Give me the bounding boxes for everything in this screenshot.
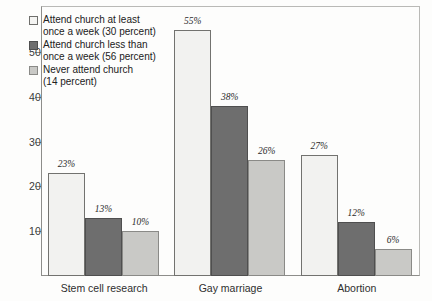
legend-label-weekly-line1: Attend church at least bbox=[43, 14, 156, 26]
legend-label-weekly: Attend church at least once a week (30 p… bbox=[43, 14, 156, 37]
legend-swatch-icon-weekly bbox=[29, 16, 38, 25]
legend-label-less-than-weekly-line2: once a week (56 percent) bbox=[43, 51, 156, 63]
bar-chart: 1020304050 23%13%10%55%38%26%27%12%6% St… bbox=[0, 0, 432, 301]
legend-label-less-than-weekly-line1: Attend church less than bbox=[43, 39, 156, 51]
x-axis-category-label: Gay marriage bbox=[167, 283, 293, 294]
bar bbox=[122, 231, 159, 276]
legend: Attend church at least once a week (30 p… bbox=[29, 14, 214, 89]
x-axis-category-label: Stem cell research bbox=[41, 283, 167, 294]
bar-value-label: 13% bbox=[79, 205, 128, 215]
legend-swatch-icon-less-than-weekly bbox=[29, 41, 38, 50]
bar-value-label: 38% bbox=[205, 93, 254, 103]
bar-value-label: 12% bbox=[332, 209, 381, 219]
legend-item-weekly: Attend church at least once a week (30 p… bbox=[29, 14, 214, 37]
bar-value-label: 27% bbox=[295, 142, 344, 152]
bar bbox=[248, 160, 285, 276]
bar-value-label: 10% bbox=[116, 218, 165, 228]
bar bbox=[48, 173, 85, 276]
bar bbox=[211, 106, 248, 276]
legend-label-weekly-line2: once a week (30 percent) bbox=[43, 26, 156, 38]
bar-value-label: 23% bbox=[42, 160, 91, 170]
legend-label-never-line1: Never attend church bbox=[43, 64, 133, 76]
bar bbox=[338, 222, 375, 276]
bar-value-label: 26% bbox=[242, 147, 291, 157]
bar-value-label: 6% bbox=[369, 236, 418, 246]
legend-item-never: Never attend church (14 percent) bbox=[29, 64, 214, 87]
legend-label-less-than-weekly: Attend church less than once a week (56 … bbox=[43, 39, 156, 62]
bar bbox=[375, 249, 412, 276]
legend-item-less-than-weekly: Attend church less than once a week (56 … bbox=[29, 39, 214, 62]
legend-swatch-icon-never bbox=[29, 66, 38, 75]
legend-label-never: Never attend church (14 percent) bbox=[43, 64, 133, 87]
x-axis-category-label: Abortion bbox=[294, 283, 420, 294]
legend-label-never-line2: (14 percent) bbox=[43, 76, 133, 88]
